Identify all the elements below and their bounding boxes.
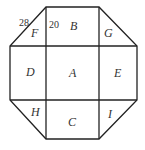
region-label-c: C — [68, 115, 77, 129]
annotation-28: 28 — [19, 17, 29, 28]
region-label-d: D — [25, 65, 35, 79]
region-label-a: A — [68, 66, 77, 80]
region-label-b: B — [70, 19, 78, 33]
region-label-e: E — [113, 66, 122, 80]
annotation-20: 20 — [49, 19, 59, 30]
region-label-i: I — [107, 107, 113, 121]
region-label-f: F — [30, 26, 39, 40]
region-label-g: G — [104, 26, 113, 40]
octagon-diagram: 28 20 F B G D A E H C I — [0, 0, 145, 150]
diagram-canvas: 28 20 F B G D A E H C I — [0, 0, 145, 150]
region-label-h: H — [30, 105, 41, 119]
